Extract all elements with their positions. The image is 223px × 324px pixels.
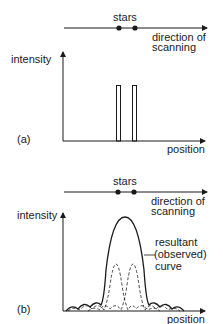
curve-label-line1: resultant bbox=[155, 236, 197, 248]
direction-label-line2-a: scanning bbox=[152, 41, 196, 53]
y-axis-label-b: intensity bbox=[17, 209, 58, 221]
x-axis-label-b: position bbox=[167, 313, 205, 324]
panel-b: stars direction of scanning intensity re… bbox=[17, 175, 207, 324]
panel-a: stars direction of scanning intensity (a… bbox=[11, 11, 207, 155]
y-axis-label-a: intensity bbox=[11, 53, 52, 65]
star-pulse-2 bbox=[133, 86, 137, 142]
panel-label-b: (b) bbox=[17, 303, 30, 315]
stars-label-b: stars bbox=[113, 175, 137, 187]
stars-label-a: stars bbox=[113, 11, 137, 23]
star-1-diffraction-curve bbox=[68, 264, 160, 311]
direction-label-line2-b: scanning bbox=[151, 205, 195, 217]
x-axis-label-a: position bbox=[167, 143, 205, 155]
panel-label-a: (a) bbox=[17, 133, 30, 145]
star-dot-1-b bbox=[115, 189, 120, 194]
star-pulse-1 bbox=[117, 86, 121, 142]
star-dot-2-b bbox=[131, 189, 136, 194]
star-dot-2-a bbox=[132, 25, 137, 30]
diagram: stars direction of scanning intensity (a… bbox=[0, 0, 223, 324]
curve-label-line3: curve bbox=[155, 260, 182, 272]
star-dot-1-a bbox=[116, 25, 121, 30]
curve-label-line2: (observed) bbox=[154, 248, 207, 260]
